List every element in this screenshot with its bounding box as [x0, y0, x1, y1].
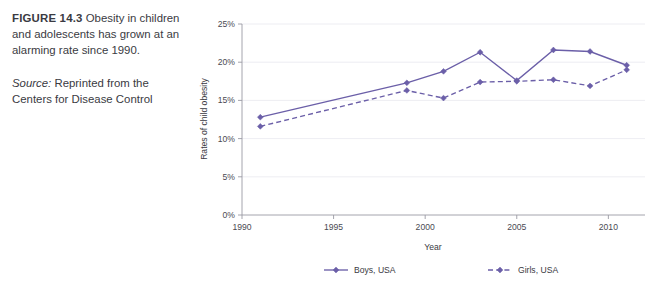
- obesity-line-chart: 0%5%10%15%20%25% 19901995200020052010 Ra…: [196, 8, 648, 278]
- y-tick-label: 20%: [218, 57, 236, 67]
- figure-source-line: Source: Reprinted from the Centers for D…: [12, 59, 188, 107]
- legend-label: Girls, USA: [518, 265, 558, 275]
- x-tick-label: 2010: [599, 222, 618, 232]
- figure-caption-block: FIGURE 14.3 Obesity in children and adol…: [12, 10, 188, 107]
- y-tick-label: 15%: [218, 95, 236, 105]
- y-axis: [238, 24, 242, 215]
- x-tick-label: 2000: [416, 222, 435, 232]
- y-tick-label: 5%: [223, 172, 236, 182]
- x-axis-tick-labels: 19901995200020052010: [232, 222, 618, 232]
- data-point-marker: [441, 68, 447, 74]
- legend-label: Boys, USA: [354, 265, 396, 275]
- data-point-marker: [587, 49, 593, 55]
- y-tick-label: 25%: [218, 19, 236, 29]
- data-point-marker: [404, 88, 410, 94]
- series-line-boys-usa: [260, 50, 626, 117]
- x-tick-label: 1990: [232, 222, 251, 232]
- data-point-marker: [257, 123, 263, 129]
- chart-svg: 0%5%10%15%20%25% 19901995200020052010 Ra…: [196, 8, 648, 278]
- data-point-marker: [477, 79, 483, 85]
- y-axis-title: Rates of child obesity: [199, 77, 209, 159]
- data-point-marker: [404, 80, 410, 86]
- data-point-marker: [551, 77, 557, 83]
- figure-number-label: FIGURE 14.3: [12, 12, 83, 24]
- x-axis-title: Year: [424, 242, 442, 252]
- x-tick-label: 1995: [324, 222, 343, 232]
- legend-marker-swatch: [333, 267, 339, 273]
- chart-legend: Boys, USAGirls, USA: [324, 265, 558, 275]
- y-tick-label: 0%: [223, 210, 236, 220]
- y-tick-label: 10%: [218, 134, 236, 144]
- data-point-marker: [587, 83, 593, 89]
- figure-caption-title: FIGURE 14.3 Obesity in children and adol…: [12, 10, 188, 59]
- x-axis: [242, 215, 645, 219]
- chart-series-layer: [257, 47, 629, 129]
- y-axis-tick-labels: 0%5%10%15%20%25%: [218, 19, 236, 220]
- legend-marker-swatch: [497, 267, 503, 273]
- x-tick-label: 2005: [507, 222, 526, 232]
- data-point-marker: [257, 114, 263, 120]
- data-point-marker: [624, 67, 630, 73]
- source-label: Source:: [12, 77, 51, 89]
